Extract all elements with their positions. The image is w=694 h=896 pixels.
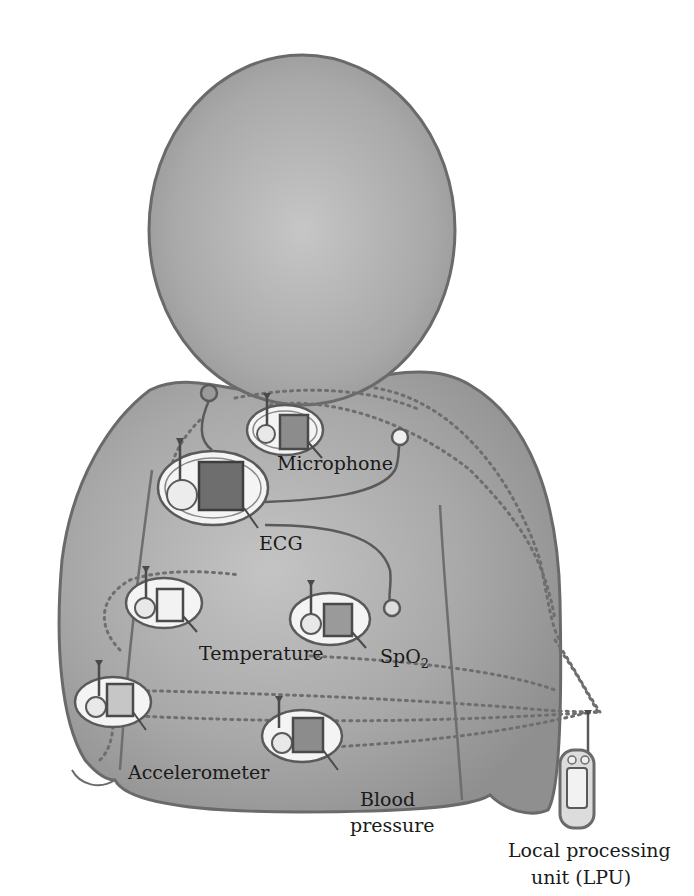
label-microphone: Microphone <box>277 452 393 474</box>
electrode-2 <box>392 429 408 445</box>
label-ecg: ECG <box>259 532 303 554</box>
label-blood-pressure-line2: pressure <box>350 814 435 836</box>
body-sensor-network-diagram: Microphone ECG Temperature SpO2 Accelero… <box>0 0 694 896</box>
electrode-1 <box>201 385 217 401</box>
electrode-3 <box>384 600 400 616</box>
label-lpu-line2: unit (LPU) <box>531 866 631 888</box>
label-blood-pressure-line1: Blood <box>360 788 415 810</box>
label-temperature: Temperature <box>199 642 323 664</box>
lpu-device[interactable] <box>560 710 594 828</box>
head <box>149 55 455 405</box>
label-accelerometer: Accelerometer <box>127 761 270 783</box>
label-spo2-subscript: 2 <box>421 656 429 671</box>
label-lpu-line1: Local processing <box>508 839 671 861</box>
